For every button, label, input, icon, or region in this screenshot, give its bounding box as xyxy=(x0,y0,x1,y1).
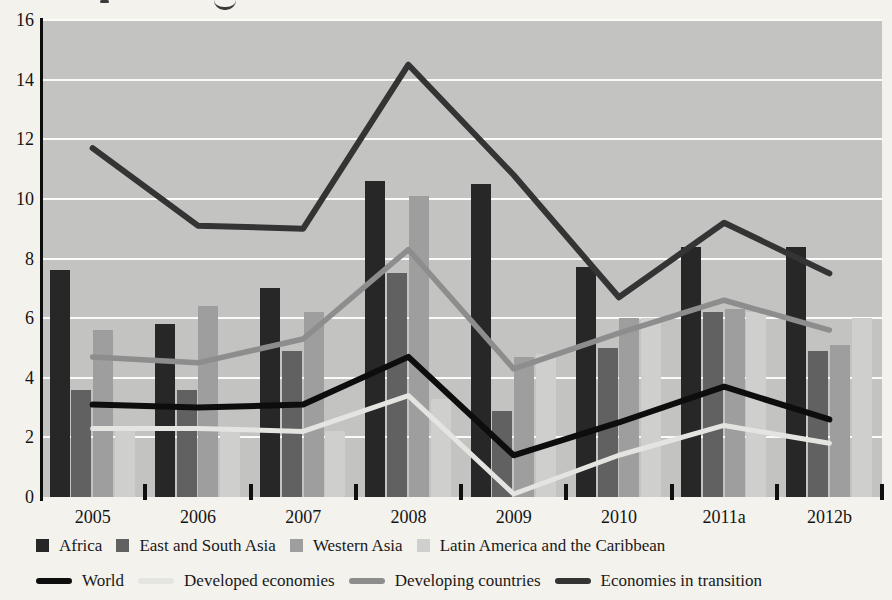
bar-western-asia-2010 xyxy=(619,318,639,497)
x-axis-label-2010: 2010 xyxy=(574,506,664,528)
gridline-12 xyxy=(43,138,882,140)
x-axis-label-2008: 2008 xyxy=(363,506,453,528)
legend-item-developed-economies: Developed economies xyxy=(138,571,335,591)
legend-label: East and South Asia xyxy=(139,536,275,556)
bar-east-and-south-asia-2007 xyxy=(282,351,302,497)
legend-line-series: WorldDeveloped economiesDeveloping count… xyxy=(36,571,876,591)
legend-swatch-square xyxy=(116,539,129,552)
bar-east-and-south-asia-2009 xyxy=(492,411,512,497)
bar-africa-2005 xyxy=(50,270,70,497)
legend-label: Latin America and the Caribbean xyxy=(440,536,666,556)
y-axis-label-12: 12 xyxy=(2,129,34,149)
bar-latin-america-and-the-caribbean-2008 xyxy=(431,399,451,497)
bar-africa-2012b xyxy=(786,247,806,497)
legend-item-economies-in-transition: Economies in transition xyxy=(555,571,762,591)
x-axis-tick xyxy=(143,484,147,500)
legend-swatch-line xyxy=(138,578,174,584)
cropped-text-fragment xyxy=(100,0,109,3)
y-axis-label-2: 2 xyxy=(2,427,34,447)
bar-africa-2008 xyxy=(365,181,385,497)
legend-bar-series: AfricaEast and South AsiaWestern AsiaLat… xyxy=(36,536,876,556)
x-axis-tick xyxy=(459,484,463,500)
bar-latin-america-and-the-caribbean-2010 xyxy=(641,318,661,497)
x-axis-label-2007: 2007 xyxy=(258,506,348,528)
legend-label: Western Asia xyxy=(313,536,403,556)
legend-label: Developed economies xyxy=(184,571,335,591)
bar-western-asia-2011a xyxy=(725,309,745,497)
legend-label: World xyxy=(82,571,124,591)
bar-western-asia-2006 xyxy=(198,306,218,497)
legend-item-africa: Africa xyxy=(36,536,102,556)
bar-latin-america-and-the-caribbean-2006 xyxy=(220,431,240,497)
legend-swatch-line xyxy=(349,578,385,584)
x-axis-tick xyxy=(249,484,253,500)
x-axis-tick xyxy=(775,484,779,500)
bar-africa-2010 xyxy=(576,267,596,497)
y-axis-label-10: 10 xyxy=(2,189,34,209)
bar-africa-2011a xyxy=(681,247,701,497)
legend-item-western-asia: Western Asia xyxy=(290,536,403,556)
bar-western-asia-2009 xyxy=(514,357,534,497)
bar-east-and-south-asia-2010 xyxy=(598,348,618,497)
x-axis-label-2011a: 2011a xyxy=(679,506,769,528)
bar-east-and-south-asia-2008 xyxy=(387,273,407,497)
cropped-text-fragment xyxy=(214,0,236,10)
gridline-16 xyxy=(43,19,882,21)
gridline-10 xyxy=(43,198,882,200)
y-axis-label-8: 8 xyxy=(2,249,34,269)
gridline-14 xyxy=(43,79,882,81)
legend-item-latin-america-and-the-caribbean: Latin America and the Caribbean xyxy=(417,536,666,556)
bar-latin-america-and-the-caribbean-2011a xyxy=(746,312,766,497)
legend-label: Developing countries xyxy=(395,571,541,591)
x-axis-label-2006: 2006 xyxy=(153,506,243,528)
legend-swatch-square xyxy=(36,539,49,552)
bar-latin-america-and-the-caribbean-2009 xyxy=(536,354,556,497)
bar-east-and-south-asia-2012b xyxy=(808,351,828,497)
legend-item-world: World xyxy=(36,571,124,591)
y-axis-label-0: 0 xyxy=(2,487,34,507)
legend-swatch-line xyxy=(36,578,72,584)
bar-western-asia-2008 xyxy=(409,196,429,497)
y-axis-line xyxy=(40,18,43,501)
legend-label: Economies in transition xyxy=(601,571,762,591)
legend-swatch-square xyxy=(290,539,303,552)
legend-swatch-line xyxy=(555,578,591,584)
y-axis-label-14: 14 xyxy=(2,70,34,90)
bar-east-and-south-asia-2006 xyxy=(177,390,197,497)
legend-item-developing-countries: Developing countries xyxy=(349,571,541,591)
legend-swatch-square xyxy=(417,539,430,552)
bar-east-and-south-asia-2005 xyxy=(71,390,91,497)
x-axis-tick xyxy=(564,484,568,500)
bar-east-and-south-asia-2011a xyxy=(703,312,723,497)
x-axis-label-2012b: 2012b xyxy=(784,506,874,528)
bar-africa-2007 xyxy=(260,288,280,497)
x-axis-tick xyxy=(670,484,674,500)
x-axis-label-2009: 2009 xyxy=(469,506,559,528)
x-axis-label-2005: 2005 xyxy=(48,506,138,528)
chart-area: AfricaEast and South AsiaWestern AsiaLat… xyxy=(0,0,892,600)
y-axis-label-16: 16 xyxy=(2,10,34,30)
bar-latin-america-and-the-caribbean-2005 xyxy=(115,428,135,497)
legend-label: Africa xyxy=(59,536,102,556)
gridline-8 xyxy=(43,258,882,260)
y-axis-label-6: 6 xyxy=(2,308,34,328)
bar-western-asia-2007 xyxy=(304,312,324,497)
legend-item-east-and-south-asia: East and South Asia xyxy=(116,536,275,556)
y-axis-label-4: 4 xyxy=(2,368,34,388)
bar-africa-2006 xyxy=(155,324,175,497)
bar-western-asia-2012b xyxy=(830,345,850,497)
x-axis-tick xyxy=(354,484,358,500)
bar-western-asia-2005 xyxy=(93,330,113,497)
bar-latin-america-and-the-caribbean-2012b xyxy=(852,318,872,497)
x-axis-tick xyxy=(880,484,884,500)
bar-latin-america-and-the-caribbean-2007 xyxy=(325,431,345,497)
bar-africa-2009 xyxy=(471,184,491,497)
